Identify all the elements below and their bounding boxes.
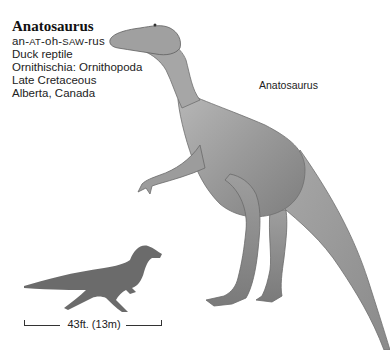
pronunciation-part: -rus bbox=[84, 35, 105, 47]
name-meaning: Duck reptile bbox=[12, 48, 142, 61]
pronunciation-part: an- bbox=[12, 35, 29, 47]
species-info: Anatosaurus an-AT-oh-SAW-rus Duck reptil… bbox=[12, 18, 142, 100]
pronunciation-part: -oh- bbox=[41, 35, 62, 47]
illustration-label: Anatosaurus bbox=[259, 79, 318, 91]
pronunciation-stress: AT bbox=[29, 36, 41, 47]
pronunciation-stress: SAW bbox=[62, 36, 84, 47]
dinosaur-arm bbox=[138, 145, 205, 194]
length-label: 43ft. (13m) bbox=[64, 317, 124, 331]
scale-line-left bbox=[24, 325, 60, 326]
pronunciation: an-AT-oh-SAW-rus bbox=[12, 35, 142, 48]
size-silhouette bbox=[24, 244, 164, 314]
scale-bar: 43ft. (13m) bbox=[24, 317, 162, 331]
classification: Ornithischia: Ornithopoda bbox=[12, 61, 142, 74]
scale-line-right bbox=[126, 325, 162, 326]
dinosaur-far-leg bbox=[256, 210, 287, 302]
scale-tick-right bbox=[161, 320, 162, 325]
fossil-location: Alberta, Canada bbox=[12, 87, 142, 100]
species-name: Anatosaurus bbox=[12, 18, 142, 34]
geologic-period: Late Cretaceous bbox=[12, 74, 142, 87]
dinosaur-eye bbox=[154, 24, 157, 27]
